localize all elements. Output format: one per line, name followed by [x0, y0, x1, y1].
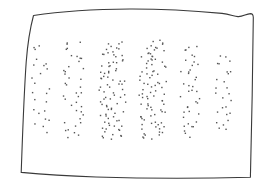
- dot: [151, 123, 152, 124]
- dot: [106, 128, 107, 129]
- dot: [112, 79, 113, 80]
- dot: [143, 83, 144, 84]
- dot: [31, 77, 32, 78]
- dot: [184, 130, 185, 131]
- dot: [99, 89, 100, 90]
- dot: [159, 128, 160, 129]
- dot: [79, 58, 80, 59]
- dot: [219, 128, 220, 129]
- dot: [216, 122, 217, 123]
- dot: [230, 100, 231, 101]
- dot: [150, 92, 151, 93]
- dot: [155, 47, 156, 48]
- dot: [194, 56, 195, 57]
- dot: [142, 93, 143, 94]
- band-2: [63, 42, 84, 139]
- dot: [191, 126, 192, 127]
- dot: [115, 70, 116, 71]
- dot: [113, 92, 114, 93]
- dot: [151, 109, 152, 110]
- hand-drawn-rectangle-border: [21, 9, 253, 178]
- dot: [108, 62, 109, 63]
- dot: [216, 79, 217, 80]
- dot: [149, 77, 150, 78]
- dot: [185, 60, 186, 61]
- dot: [150, 53, 151, 54]
- dot: [122, 89, 123, 90]
- dot: [151, 138, 152, 139]
- dot: [183, 111, 184, 112]
- dot: [150, 107, 151, 108]
- dot: [151, 86, 152, 87]
- dot: [215, 92, 216, 93]
- dot: [199, 98, 200, 99]
- dot: [162, 100, 163, 101]
- dot: [106, 49, 107, 50]
- dot: [122, 60, 123, 61]
- dot: [146, 73, 147, 74]
- dot: [111, 109, 112, 110]
- dot: [151, 59, 152, 60]
- dot: [32, 92, 33, 93]
- dot: [121, 83, 122, 84]
- dot: [139, 76, 140, 77]
- dot-bands-layer: [31, 40, 232, 140]
- dot: [78, 96, 79, 97]
- dot: [103, 91, 104, 92]
- dot: [107, 76, 108, 77]
- dot: [45, 63, 46, 64]
- dot: [110, 98, 111, 99]
- dot: [100, 72, 101, 73]
- dot: [108, 118, 109, 119]
- dot: [43, 126, 44, 127]
- dot: [197, 64, 198, 65]
- dot: [198, 113, 199, 114]
- dot: [107, 52, 108, 53]
- dot: [196, 91, 197, 92]
- dot: [81, 111, 82, 112]
- dot: [124, 94, 125, 95]
- dot: [64, 73, 65, 74]
- dot: [156, 47, 157, 48]
- dot: [120, 97, 121, 98]
- dot: [157, 74, 158, 75]
- dot: [34, 83, 35, 84]
- dot: [215, 87, 216, 88]
- dot: [103, 98, 104, 99]
- dot: [108, 72, 109, 73]
- dot: [66, 49, 67, 50]
- dot: [80, 79, 81, 80]
- dot: [65, 71, 66, 72]
- dot: [107, 84, 108, 85]
- band-6: [215, 55, 232, 130]
- dot: [222, 97, 223, 98]
- dot: [66, 43, 67, 44]
- dot: [151, 64, 152, 65]
- dot: [148, 105, 149, 106]
- dot: [224, 81, 225, 82]
- dot: [164, 111, 165, 112]
- dot: [223, 124, 224, 125]
- dot: [180, 71, 181, 72]
- dot: [48, 120, 49, 121]
- dot: [121, 135, 122, 136]
- dot: [230, 71, 231, 72]
- dot: [101, 78, 102, 79]
- dot: [117, 103, 118, 104]
- dot: [65, 98, 66, 99]
- dot: [163, 126, 164, 127]
- dot: [217, 111, 218, 112]
- dot: [66, 84, 67, 85]
- dot: [116, 62, 117, 63]
- dot: [34, 99, 35, 100]
- dot: [104, 121, 105, 122]
- dot: [34, 49, 35, 50]
- dot: [63, 70, 64, 71]
- dot: [83, 68, 84, 69]
- dot: [71, 55, 72, 56]
- dot: [220, 55, 221, 56]
- dot: [46, 101, 47, 102]
- dot: [46, 132, 47, 133]
- dot: [217, 63, 218, 64]
- dot: [228, 73, 229, 74]
